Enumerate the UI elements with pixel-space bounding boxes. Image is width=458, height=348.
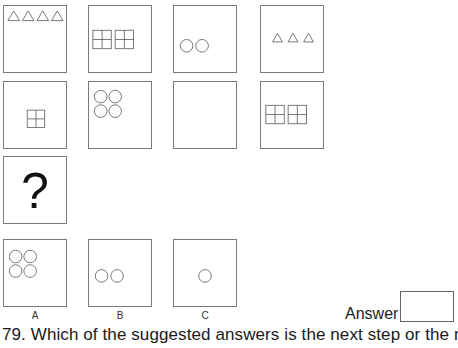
puzzle-cell-r1c1 (3, 5, 67, 73)
quartered-square-icon (4, 82, 66, 148)
answer-label: Answer (345, 305, 398, 323)
question-text: 79. Which of the suggested answers is th… (2, 325, 458, 345)
three-triangles-icon (261, 6, 323, 72)
option-a-label: A (3, 310, 67, 321)
question-mark-icon: ? (4, 163, 66, 219)
two-quartered-squares-icon (261, 82, 323, 148)
four-triangles-icon (4, 6, 66, 72)
option-b[interactable] (88, 239, 152, 307)
puzzle-cell-r2c4 (260, 81, 324, 149)
option-c[interactable] (173, 239, 237, 307)
two-circles-icon (89, 240, 151, 306)
option-a[interactable] (3, 239, 67, 307)
two-circles-icon (174, 6, 236, 72)
puzzle-cell-r2c3-empty (173, 81, 237, 149)
one-circle-icon (174, 240, 236, 306)
option-c-label: C (173, 310, 237, 321)
option-b-label: B (88, 310, 152, 321)
puzzle-cell-r1c4 (260, 5, 324, 73)
four-circles-icon (89, 82, 151, 148)
puzzle-cell-r1c3 (173, 5, 237, 73)
puzzle-cell-r2c2 (88, 81, 152, 149)
four-circles-icon (4, 240, 66, 306)
two-quartered-squares-icon (89, 6, 151, 72)
answer-input-box[interactable] (400, 291, 454, 322)
puzzle-cell-r2c1 (3, 81, 67, 149)
puzzle-cell-question: ? (3, 156, 67, 224)
puzzle-cell-r1c2 (88, 5, 152, 73)
